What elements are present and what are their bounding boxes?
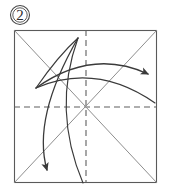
figure-canvas: 2 [0, 0, 170, 194]
step-number-label: 2 [16, 7, 24, 23]
origami-step-figure: 2 [0, 0, 170, 194]
step-number-badge: 2 [11, 6, 30, 25]
